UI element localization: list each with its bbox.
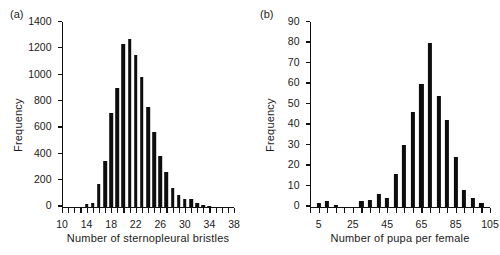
panel-a-x-axis-title: Number of sternopleural bristles xyxy=(67,232,229,244)
x-tick-mark-minor xyxy=(148,208,149,213)
x-tick-label: 22 xyxy=(130,218,142,230)
x-tick-mark-minor xyxy=(310,208,311,213)
figure-container: (a) Frequency Number of sternopleural br… xyxy=(0,0,500,255)
histogram-bar xyxy=(109,113,113,207)
histogram-bar xyxy=(368,200,372,206)
histogram-bar xyxy=(376,194,380,206)
histogram-bar xyxy=(189,199,193,206)
panel-a-y-axis-line xyxy=(62,22,63,208)
histogram-bar xyxy=(402,145,406,207)
x-tick-mark-major: 5 xyxy=(319,208,320,213)
x-tick-mark-minor xyxy=(154,208,155,213)
panel-a-label: (a) xyxy=(10,8,23,20)
y-tick-mark: 10 xyxy=(306,185,311,186)
histogram-bar xyxy=(325,201,329,206)
histogram-bar xyxy=(140,77,144,206)
panel-b-x-axis-line xyxy=(310,207,490,208)
x-tick-mark-major: 18 xyxy=(111,208,112,213)
histogram-bar xyxy=(183,199,187,207)
histogram-bar xyxy=(436,96,440,207)
y-tick-mark: 0 xyxy=(58,205,63,206)
y-tick-label: 20 xyxy=(288,158,300,170)
y-tick-label: 1000 xyxy=(28,68,51,80)
y-tick-label: 50 xyxy=(288,97,300,109)
x-tick-label: 5 xyxy=(316,218,322,230)
x-tick-label: 10 xyxy=(56,218,68,230)
x-tick-mark-minor xyxy=(197,208,198,213)
x-tick-label: 65 xyxy=(416,218,428,230)
y-tick-mark: 60 xyxy=(306,82,311,83)
x-tick-mark-minor xyxy=(396,208,397,213)
x-tick-mark-minor xyxy=(344,208,345,213)
panel-b-y-axis-line xyxy=(310,22,311,208)
y-tick-label: 1200 xyxy=(28,41,51,53)
y-tick-label: 400 xyxy=(34,147,52,159)
histogram-bar xyxy=(158,156,162,207)
panel-a-y-axis-title: Frequency xyxy=(12,98,24,152)
y-tick-mark: 1200 xyxy=(58,47,63,48)
x-tick-mark-minor xyxy=(327,208,328,213)
y-tick-label: 60 xyxy=(288,76,300,88)
y-tick-mark: 200 xyxy=(58,179,63,180)
histogram-bar xyxy=(394,174,398,207)
x-tick-mark-major: 38 xyxy=(234,208,235,213)
histogram-bar xyxy=(385,198,389,206)
y-tick-label: 800 xyxy=(34,94,52,106)
x-tick-mark-minor xyxy=(117,208,118,213)
x-tick-mark-major: 10 xyxy=(62,208,63,213)
histogram-bar xyxy=(428,43,432,207)
x-tick-mark-major: 65 xyxy=(421,208,422,213)
histogram-bar xyxy=(462,190,466,206)
panel-b-plot-area: 0102030405060708090 525456585105 xyxy=(310,22,490,208)
x-tick-mark-minor xyxy=(99,208,100,213)
y-tick-mark: 400 xyxy=(58,153,63,154)
x-tick-mark-major: 45 xyxy=(387,208,388,213)
x-tick-label: 18 xyxy=(105,218,117,230)
histogram-bar xyxy=(146,107,150,207)
y-tick-mark: 1400 xyxy=(58,21,63,22)
x-tick-label: 26 xyxy=(154,218,166,230)
panel-b-label: (b) xyxy=(260,8,273,20)
x-tick-mark-minor xyxy=(93,208,94,213)
x-tick-label: 30 xyxy=(179,218,191,230)
histogram-bar xyxy=(97,184,101,207)
y-tick-label: 0 xyxy=(46,199,52,211)
x-tick-mark-major: 25 xyxy=(353,208,354,213)
histogram-bar xyxy=(85,204,89,207)
x-tick-mark-minor xyxy=(370,208,371,213)
y-tick-label: 70 xyxy=(288,56,300,68)
y-tick-mark: 80 xyxy=(306,41,311,42)
histogram-bar xyxy=(128,39,132,206)
x-tick-mark-minor xyxy=(166,208,167,213)
histogram-bar xyxy=(103,161,107,206)
x-tick-mark-major: 22 xyxy=(136,208,137,213)
histogram-bar xyxy=(201,205,205,207)
y-tick-label: 1400 xyxy=(28,15,51,27)
x-tick-mark-minor xyxy=(228,208,229,213)
x-tick-mark-minor xyxy=(179,208,180,213)
x-tick-mark-minor xyxy=(191,208,192,213)
histogram-bar xyxy=(479,203,483,207)
y-tick-label: 0 xyxy=(294,199,300,211)
x-tick-mark-minor xyxy=(105,208,106,213)
x-tick-mark-minor xyxy=(142,208,143,213)
x-tick-mark-minor xyxy=(203,208,204,213)
x-tick-mark-minor xyxy=(222,208,223,213)
x-tick-mark-minor xyxy=(80,208,81,213)
x-tick-label: 14 xyxy=(81,218,93,230)
x-tick-mark-minor xyxy=(130,208,131,213)
x-tick-label: 25 xyxy=(347,218,359,230)
y-tick-mark: 600 xyxy=(58,126,63,127)
x-tick-mark-minor xyxy=(361,208,362,213)
histogram-bar xyxy=(171,188,175,206)
histogram-bar xyxy=(411,112,415,206)
x-tick-mark-major: 26 xyxy=(160,208,161,213)
x-tick-mark-minor xyxy=(123,208,124,213)
histogram-bar xyxy=(122,44,126,206)
histogram-bar xyxy=(165,172,169,206)
histogram-bar xyxy=(134,55,138,207)
y-tick-mark: 20 xyxy=(306,164,311,165)
histogram-bar xyxy=(445,120,449,206)
y-tick-label: 80 xyxy=(288,35,300,47)
histogram-bar xyxy=(152,132,156,206)
